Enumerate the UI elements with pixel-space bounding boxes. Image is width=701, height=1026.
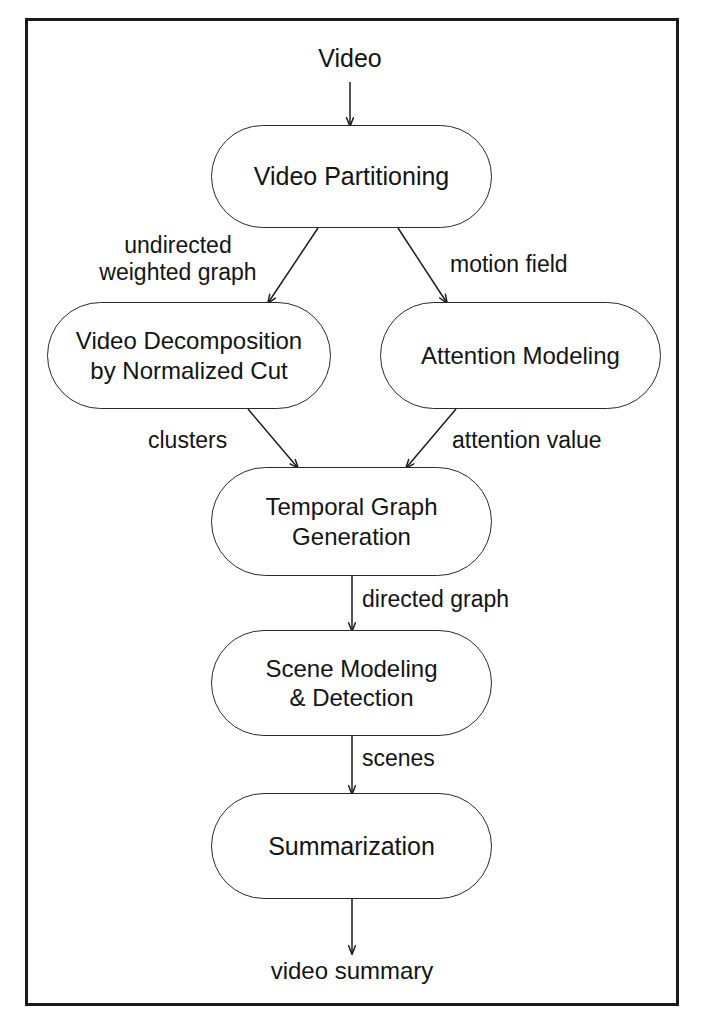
node-summarization-label: Summarization <box>260 831 443 862</box>
output-label: video summary <box>227 957 477 985</box>
edge-label-undirected-weighted-graph: undirected weighted graph <box>78 232 278 286</box>
node-video-partitioning-label: Video Partitioning <box>246 161 458 192</box>
node-video-decomposition-label: Video Decomposition by Normalized Cut <box>68 326 310 385</box>
node-video-decomposition[interactable]: Video Decomposition by Normalized Cut <box>47 302 331 409</box>
edge-label-scenes: scenes <box>362 745 522 772</box>
edge-label-directed-graph: directed graph <box>362 586 582 613</box>
edge-label-clusters: clusters <box>148 427 298 454</box>
node-temporal-graph-generation-label: Temporal Graph Generation <box>257 492 445 551</box>
node-summarization[interactable]: Summarization <box>211 793 492 899</box>
edge-label-motion-field: motion field <box>450 251 640 278</box>
node-attention-modeling-label: Attention Modeling <box>413 341 628 370</box>
edge-label-attention-value: attention value <box>452 427 652 454</box>
node-temporal-graph-generation[interactable]: Temporal Graph Generation <box>211 467 492 576</box>
figure-root: Video Video Partitioning undirected weig… <box>0 0 701 1026</box>
node-scene-modeling-detection[interactable]: Scene Modeling & Detection <box>211 630 492 736</box>
node-scene-modeling-detection-label: Scene Modeling & Detection <box>257 654 445 713</box>
node-attention-modeling[interactable]: Attention Modeling <box>380 302 661 409</box>
node-video-partitioning[interactable]: Video Partitioning <box>211 125 492 228</box>
input-label: Video <box>275 44 425 73</box>
